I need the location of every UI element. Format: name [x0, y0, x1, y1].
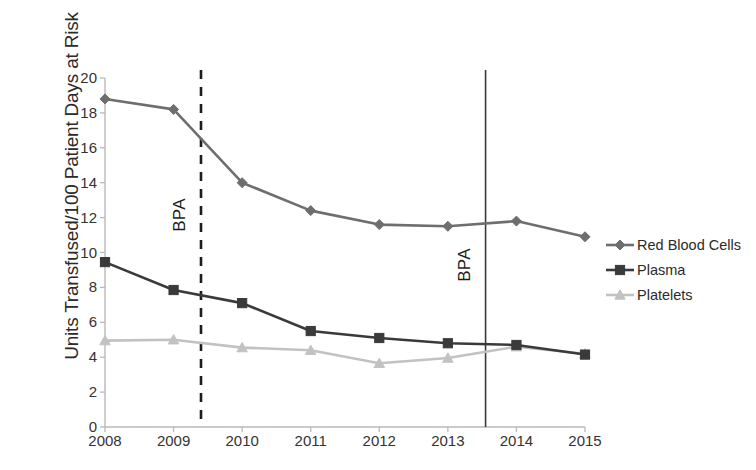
- bpa-annotation-label: BPA: [170, 198, 190, 232]
- data-point-marker: [580, 350, 589, 359]
- y-axis-tick-label: 8: [59, 279, 97, 294]
- x-axis-tick-labels: 20082009201020112012201320142015: [105, 433, 585, 459]
- data-point-marker: [100, 94, 110, 104]
- data-point-marker: [374, 220, 384, 230]
- legend-swatch-square-icon: [605, 262, 635, 278]
- legend-item-platelets[interactable]: Platelets: [605, 282, 755, 307]
- y-axis-tick-label: 18: [59, 105, 97, 120]
- y-axis-tick-label: 16: [59, 140, 97, 155]
- legend-label: Plasma: [635, 262, 685, 278]
- x-axis-tick-label: 2010: [207, 433, 277, 448]
- y-axis-tick-label: 12: [59, 210, 97, 225]
- plot-area: [105, 78, 585, 427]
- y-axis-tick-label: 20: [59, 70, 97, 85]
- x-axis-tick-label: 2015: [550, 433, 620, 448]
- data-point-marker: [512, 340, 521, 349]
- legend-swatch-triangle-icon: [605, 287, 635, 303]
- data-point-marker: [375, 333, 384, 342]
- plot-svg: [105, 78, 585, 427]
- data-point-marker: [238, 299, 247, 308]
- data-point-marker: [511, 216, 521, 226]
- data-point-marker: [443, 339, 452, 348]
- legend-swatch-diamond-icon: [605, 237, 635, 253]
- data-point-marker: [306, 326, 315, 335]
- y-axis-tick-label: 2: [59, 384, 97, 399]
- data-point-marker: [306, 206, 316, 216]
- bpa-annotation-label: BPA: [454, 248, 474, 282]
- x-axis-tick-label: 2008: [70, 433, 140, 448]
- x-axis-tick-label: 2014: [481, 433, 551, 448]
- x-axis-tick-label: 2011: [276, 433, 346, 448]
- legend-label: Red Blood Cells: [635, 237, 741, 253]
- data-point-marker: [615, 240, 625, 250]
- data-point-marker: [100, 257, 109, 266]
- legend-item-plasma[interactable]: Plasma: [605, 257, 755, 282]
- y-axis-tick-label: 6: [59, 314, 97, 329]
- y-axis-tick-label: 10: [59, 245, 97, 260]
- legend-item-red-blood-cells[interactable]: Red Blood Cells: [605, 232, 755, 257]
- y-axis-tick-label: 4: [59, 349, 97, 364]
- data-point-marker: [169, 285, 178, 294]
- transfusion-trend-chart: Units Transfused/100 Patient Days at Ris…: [0, 0, 756, 470]
- x-axis-tick-label: 2012: [344, 433, 414, 448]
- series-platelets: [100, 335, 590, 368]
- x-axis-tick-label: 2009: [139, 433, 209, 448]
- data-point-marker: [615, 265, 624, 274]
- data-point-marker: [580, 232, 590, 242]
- chart-legend: Red Blood CellsPlasmaPlatelets: [605, 232, 755, 307]
- data-point-marker: [443, 221, 453, 231]
- legend-label: Platelets: [635, 287, 693, 303]
- y-axis-tick-labels: 20181614121086420: [55, 78, 97, 427]
- x-axis-tick-label: 2013: [413, 433, 483, 448]
- y-axis-tick-label: 14: [59, 175, 97, 190]
